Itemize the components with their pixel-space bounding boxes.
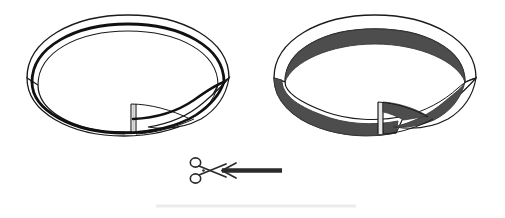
right-mobius-strip bbox=[274, 15, 476, 136]
cut-instruction bbox=[190, 158, 282, 183]
left-mobius-strip bbox=[27, 15, 229, 136]
illustration-canvas bbox=[0, 0, 505, 218]
left-band-far-half bbox=[27, 15, 229, 85]
mobius-strip-diagram bbox=[0, 0, 505, 218]
right-seam-gap bbox=[378, 102, 383, 134]
left-guideline-near-left bbox=[32, 82, 124, 133]
right-band-far-half bbox=[274, 15, 476, 82]
scissors-pivot bbox=[202, 169, 205, 172]
scissors-icon bbox=[190, 158, 226, 183]
arrow-left-icon bbox=[222, 163, 282, 178]
right-band-twist bbox=[393, 78, 476, 128]
right-twist-shaded-face bbox=[393, 82, 465, 127]
